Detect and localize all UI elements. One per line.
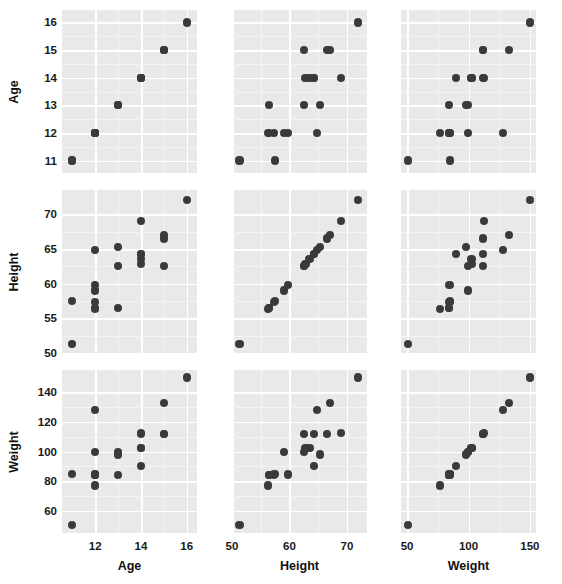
gridline-horizontal-minor (62, 119, 197, 120)
gridline-horizontal-minor (232, 36, 367, 37)
data-point (160, 46, 168, 54)
x-tick-label: 100 (459, 540, 478, 552)
y-tick-label: 100 (38, 446, 57, 458)
gridline-horizontal (401, 284, 536, 286)
gridline-horizontal (232, 22, 367, 24)
data-point (284, 281, 292, 289)
data-point (526, 196, 534, 204)
scatterplot-matrix: 1112131415165055606570608010012014012141… (0, 0, 562, 584)
data-point (316, 450, 324, 458)
gridline-horizontal-minor (62, 466, 197, 467)
data-point (436, 129, 444, 137)
panel-age-vs-height (232, 10, 367, 173)
gridline-horizontal-minor (401, 147, 536, 148)
data-point (326, 231, 334, 239)
data-point (499, 406, 507, 414)
data-point (114, 471, 122, 479)
gridline-horizontal-minor (232, 336, 367, 337)
gridline-horizontal-minor (232, 407, 367, 408)
gridline-horizontal (62, 105, 197, 107)
data-point (323, 430, 331, 438)
x-tick-label: 150 (520, 540, 539, 552)
data-point (404, 521, 412, 529)
gridline-horizontal-minor (62, 36, 197, 37)
data-point (68, 340, 76, 348)
gridline-horizontal (401, 511, 536, 513)
data-point (316, 243, 324, 251)
y-tick-label: 13 (44, 99, 57, 111)
gridline-horizontal (401, 318, 536, 320)
data-point (300, 430, 308, 438)
data-point (91, 246, 99, 254)
panel-age-vs-weight (401, 10, 536, 173)
gridline-horizontal-minor (401, 466, 536, 467)
panel-height-vs-height (232, 190, 367, 353)
gridline-horizontal (232, 392, 367, 394)
data-point (68, 156, 76, 164)
gridline-horizontal-minor (232, 437, 367, 438)
gridline-horizontal (62, 318, 197, 320)
gridline-horizontal (62, 511, 197, 513)
x-axis-title-age: Age (118, 559, 142, 573)
gridline-horizontal (232, 161, 367, 163)
data-point (354, 373, 362, 381)
data-point (462, 243, 470, 251)
data-point (310, 430, 318, 438)
gridline-horizontal-minor (232, 496, 367, 497)
data-point (445, 281, 453, 289)
data-point (326, 399, 334, 407)
data-point (479, 234, 487, 242)
data-point (160, 231, 168, 239)
gridline-horizontal-minor (62, 266, 197, 267)
data-point (467, 74, 475, 82)
data-point (264, 481, 272, 489)
data-point (114, 262, 122, 270)
gridline-horizontal (62, 22, 197, 24)
gridline-horizontal-minor (232, 147, 367, 148)
gridline-horizontal-minor (62, 232, 197, 233)
data-point (479, 262, 487, 270)
panel-height-vs-age (62, 190, 197, 353)
gridline-horizontal (62, 133, 197, 135)
data-point (467, 444, 475, 452)
gridline-horizontal (232, 78, 367, 80)
data-point (354, 196, 362, 204)
y-axis-title-height: Height (7, 190, 21, 353)
gridline-horizontal (401, 161, 536, 163)
data-point (265, 101, 273, 109)
gridline-horizontal-minor (401, 336, 536, 337)
data-point (464, 129, 472, 137)
data-point (300, 262, 308, 270)
y-tick-label: 65 (44, 243, 57, 255)
data-point (313, 129, 321, 137)
x-tick-label: 60 (283, 540, 296, 552)
gridline-horizontal-minor (62, 336, 197, 337)
y-tick-label: 70 (44, 208, 57, 220)
data-point (160, 430, 168, 438)
gridline-horizontal (232, 133, 367, 135)
data-point (404, 156, 412, 164)
y-tick-label: 60 (44, 278, 57, 290)
gridline-horizontal (401, 22, 536, 24)
gridline-horizontal (401, 422, 536, 424)
data-point (436, 481, 444, 489)
gridline-horizontal (232, 318, 367, 320)
data-point (310, 462, 318, 470)
y-axis-title-age: Age (7, 10, 21, 173)
gridline-horizontal-minor (401, 301, 536, 302)
x-tick-label: 16 (180, 540, 193, 552)
gridline-horizontal (62, 481, 197, 483)
data-point (235, 340, 243, 348)
data-point (300, 46, 308, 54)
gridline-horizontal (232, 214, 367, 216)
y-axis-title-weight: Weight (7, 370, 21, 533)
panel-height-vs-weight (401, 190, 536, 353)
gridline-horizontal (232, 249, 367, 251)
gridline-horizontal-minor (232, 232, 367, 233)
data-point (337, 74, 345, 82)
gridline-horizontal (62, 284, 197, 286)
data-point (137, 429, 145, 437)
data-point (114, 243, 122, 251)
data-point (68, 297, 76, 305)
data-point (137, 74, 145, 82)
